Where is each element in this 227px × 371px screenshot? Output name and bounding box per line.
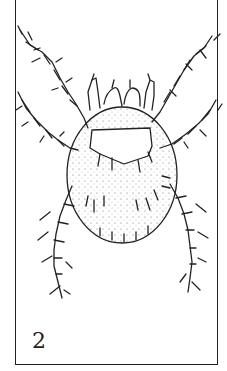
- leg-front-right: [152, 34, 220, 122]
- leg-hind-right: [170, 184, 208, 292]
- leg-second-left: [16, 92, 78, 150]
- leg-front-left: [18, 26, 88, 128]
- mouthparts: [88, 74, 154, 110]
- leg-hind-left: [38, 186, 74, 298]
- mite-body: [67, 107, 177, 243]
- mite-illustration: [0, 0, 227, 371]
- figure-number-label: 2: [32, 330, 46, 352]
